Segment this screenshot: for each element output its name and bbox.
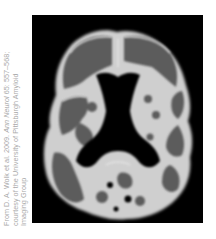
pet-brain-scan-image (32, 15, 203, 223)
brain-scan-graphic (32, 15, 203, 223)
image-credit-caption: From D. A. Wolk et al. 2009. Ann Neurol … (3, 36, 29, 226)
caption-citation-authors: From D. A. Wolk et al. 2009. (2, 133, 11, 226)
caption-journal-name: Ann Neurol (2, 96, 11, 132)
figure: From D. A. Wolk et al. 2009. Ann Neurol … (0, 0, 216, 239)
caption-citation-volume: 65: 557–568; (2, 52, 11, 97)
caption-line-3: Imaging Group (20, 36, 29, 226)
